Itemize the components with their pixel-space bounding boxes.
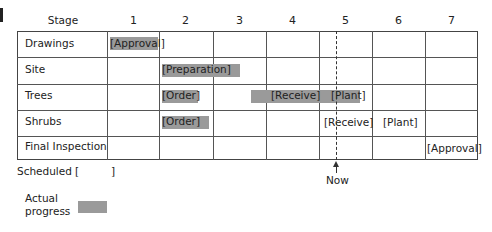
task-final-approval: [Approval]	[427, 142, 482, 154]
stage-2-header: 2	[159, 14, 212, 27]
column-divider	[425, 31, 426, 160]
column-divider	[213, 31, 214, 160]
row-label-trees: Trees	[25, 89, 52, 101]
row-label-drawings: Drawings	[25, 37, 74, 49]
task-trees-receive: [Receive]	[271, 89, 320, 101]
row-divider	[17, 136, 478, 137]
stage-6-header: 6	[372, 14, 425, 27]
stage-3-header: 3	[213, 14, 266, 27]
legend-actual-progress-swatch	[78, 201, 107, 213]
row-divider	[17, 84, 478, 85]
column-divider	[107, 31, 108, 160]
row-divider	[17, 110, 478, 111]
task-shrubs-plant: [Plant]	[383, 116, 418, 128]
stage-1-header: 1	[107, 14, 160, 27]
task-site-preparation: [Preparation]	[162, 63, 231, 75]
task-trees-order: [Order]	[162, 89, 200, 101]
stage-header-label: Stage	[33, 14, 93, 26]
corner-mark	[0, 8, 3, 22]
legend-scheduled-label: Scheduled	[17, 165, 72, 177]
column-divider	[159, 31, 160, 160]
legend-actual-line1: Actual	[25, 192, 58, 204]
row-label-site: Site	[25, 63, 45, 75]
task-shrubs-receive: [Receive]	[324, 116, 373, 128]
row-divider	[17, 57, 478, 58]
row-label-shrubs: Shrubs	[25, 115, 61, 127]
stage-7-header: 7	[425, 14, 478, 27]
column-divider	[372, 31, 373, 160]
task-shrubs-order: [Order]	[162, 115, 200, 127]
now-label: Now	[326, 174, 349, 186]
stage-4-header: 4	[266, 14, 319, 27]
now-arrow-stem	[336, 164, 337, 173]
legend-actual-line2: progress	[25, 205, 70, 217]
task-drawings-approval: [Approval]	[110, 37, 165, 49]
legend-scheduled-bracket-close: ]	[111, 165, 115, 177]
legend-scheduled-bracket-open: [	[75, 165, 79, 177]
stage-5-header: 5	[319, 14, 372, 27]
row-label-final-inspection: Final Inspection	[25, 140, 107, 152]
now-dashed-line	[336, 31, 337, 160]
